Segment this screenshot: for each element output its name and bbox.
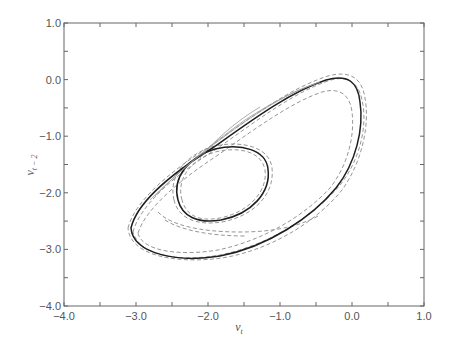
x-tick-label: −3.0 [125, 310, 147, 322]
y-tick-label: 1.0 [46, 17, 61, 29]
x-tick-label: −1.0 [269, 310, 291, 322]
x-tick-labels: −4.0−3.0−2.0−1.00.01.0 [53, 310, 432, 322]
plot-frame [64, 23, 424, 306]
y-tick-label: 0.0 [46, 74, 61, 86]
dashed-trajectories [128, 74, 366, 260]
y-tick-label: −2.0 [39, 187, 61, 199]
y-axis-label: vt − 2 [23, 155, 39, 176]
x-tick-label: −2.0 [197, 310, 219, 322]
y-tick-labels: 1.00.0−1.0−2.0−3.0−4.0 [39, 17, 61, 312]
axis-ticks [64, 23, 424, 306]
y-tick-label: −4.0 [39, 300, 61, 312]
y-tick-label: −3.0 [39, 243, 61, 255]
connecting-strands [150, 82, 320, 200]
solid-trajectory [131, 78, 361, 258]
x-tick-label: 0.0 [344, 310, 359, 322]
x-axis-label: vt [235, 320, 243, 336]
y-tick-label: −1.0 [39, 130, 61, 142]
x-tick-label: 1.0 [416, 310, 431, 322]
phase-plot: −4.0−3.0−2.0−1.00.01.0 1.00.0−1.0−2.0−3.… [0, 0, 457, 359]
